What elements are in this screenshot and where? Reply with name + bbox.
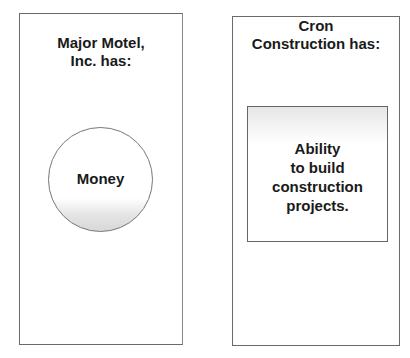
ability-rectangle: Ability to build construction projects. [247,106,388,242]
title-line-2: Construction has: [233,35,399,53]
panel-title-major-motel: Major Motel, Inc. has: [20,34,182,70]
panel-title-cron-construction: Cron Construction has: [233,17,399,53]
title-line-2: Inc. has: [20,52,182,70]
title-line-1: Cron [233,17,399,35]
ability-line-3: construction [272,177,363,196]
ability-line-1: Ability [272,139,363,158]
title-line-1: Major Motel, [20,34,182,52]
ability-line-2: to build [272,158,363,177]
money-circle: Money [48,127,153,232]
money-label: Money [77,170,125,187]
ability-label: Ability to build construction projects. [272,139,363,215]
ability-line-4: projects. [272,196,363,215]
